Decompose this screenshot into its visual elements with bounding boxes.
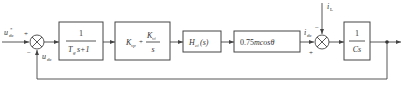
feedback-label-sub: dc xyxy=(47,57,53,62)
hci-sub: ci xyxy=(195,43,199,48)
disturbance-label-main: i xyxy=(327,2,329,11)
input-label-main: u xyxy=(4,28,8,37)
gain-text: 0.75mcosθ xyxy=(240,38,274,47)
lowpass-numerator: 1 xyxy=(79,29,83,38)
modulation-gain-block: 0.75mcosθ xyxy=(234,31,300,52)
current-label: i dc xyxy=(304,28,313,38)
input-label: u dc * xyxy=(4,27,15,38)
lowpass-den-rest: s+1 xyxy=(77,45,90,54)
capacitor-block: 1 Cs xyxy=(344,22,370,60)
pi-plus: + xyxy=(139,38,143,46)
pi-kp-sub: vp xyxy=(131,43,136,48)
sum-junction-2: − + xyxy=(309,24,329,57)
capacitor-denominator: Cs xyxy=(353,45,361,54)
current-label-sub: dc xyxy=(307,33,313,38)
pi-controller-block: K vp + K vi s xyxy=(115,22,170,60)
current-label-main: i xyxy=(304,28,306,37)
sum1-plus-sign: + xyxy=(24,30,28,38)
pi-ki-den: s xyxy=(151,45,154,54)
sum2-plus-sign: + xyxy=(309,49,313,57)
current-loop-block: H ci (s) xyxy=(183,31,221,52)
feedback-label-main: u xyxy=(42,52,46,61)
sum2-minus-sign: − xyxy=(315,24,319,32)
input-label-sub: dc xyxy=(9,33,15,38)
feedback-label: u dc xyxy=(42,52,53,62)
lowpass-filter-block: 1 T g s+1 xyxy=(59,22,103,60)
input-label-sup: * xyxy=(10,27,13,32)
capacitor-numerator: 1 xyxy=(355,29,359,38)
sum1-minus-sign: − xyxy=(27,49,31,57)
sum-junction-1: + − xyxy=(24,30,44,57)
disturbance-label-sub: L xyxy=(330,7,333,12)
disturbance-label: i L xyxy=(327,2,333,12)
hci-rest: (s) xyxy=(200,38,209,47)
control-block-diagram: u dc * + − u dc 1 T g s+1 K vp + K vi s xyxy=(0,0,404,85)
pi-ki-sub: vi xyxy=(152,36,156,41)
